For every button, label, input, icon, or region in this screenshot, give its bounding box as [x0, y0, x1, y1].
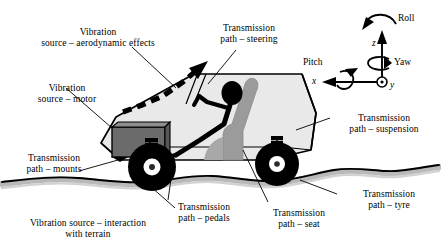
coordinate-axis-triad [322, 15, 396, 89]
label-aero-source: Vibration source – aerodynamic effects [10, 27, 186, 49]
label-axis-x: x [312, 76, 316, 86]
label-terrain-source: Vibration source – interaction with terr… [8, 218, 168, 240]
vibration-transmission-diagram: Vibration source – aerodynamic effects V… [0, 0, 441, 252]
driver-head [222, 81, 243, 105]
front-wheel [128, 143, 176, 191]
label-axis-z: z [372, 38, 376, 48]
label-axis-y: y [390, 80, 394, 90]
label-seat-path: Transmission path – seat [247, 208, 351, 230]
rear-wheel [255, 142, 299, 186]
label-steering-path: Transmission path – steering [196, 23, 302, 45]
label-tyre-path: Transmission path – tyre [339, 189, 439, 211]
label-pitch: Pitch [303, 57, 323, 68]
label-yaw: Yaw [394, 57, 411, 68]
label-suspension-path: Transmission path – suspension [331, 113, 437, 135]
label-roll: Roll [398, 13, 414, 24]
label-motor-source: Vibration source – motor [6, 83, 128, 105]
label-mounts-path: Transmission path – mounts [2, 153, 106, 175]
